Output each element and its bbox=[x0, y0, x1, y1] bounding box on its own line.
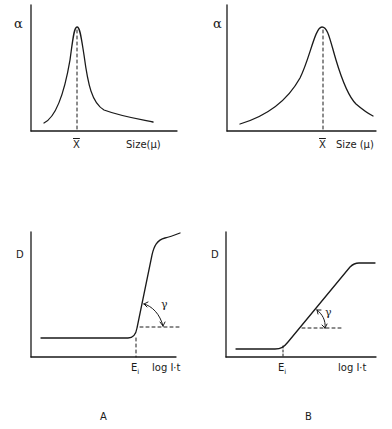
bottom-left-characteristic-curve bbox=[41, 233, 180, 338]
bottom-left-gamma-label: γ bbox=[161, 299, 168, 310]
top-right-y-axis-label: α bbox=[213, 17, 222, 30]
bottom-left-y-axis-label: D bbox=[16, 250, 24, 260]
top-left-y-axis-label: α bbox=[14, 17, 23, 30]
top-right-mean-label: X bbox=[319, 140, 326, 150]
top-right-distribution-curve bbox=[240, 27, 373, 124]
bottom-left-ei-label: Ei bbox=[131, 363, 139, 376]
bottom-right-characteristic-curve bbox=[236, 263, 375, 349]
top-left-x-axis-label: Size(μ) bbox=[126, 140, 161, 150]
diagram-canvas bbox=[0, 0, 392, 429]
top-right-x-axis-label: Size (μ) bbox=[336, 140, 374, 150]
top-left-mean-label: X bbox=[73, 140, 80, 150]
bottom-right-gamma-label: γ bbox=[325, 307, 332, 318]
top-left-distribution-curve bbox=[44, 27, 153, 123]
bottom-right-ei-label: Ei bbox=[278, 363, 286, 376]
top-right-axes bbox=[227, 5, 376, 131]
panel-label-a: A bbox=[100, 412, 107, 422]
bottom-right-ei-subscript: i bbox=[284, 368, 286, 376]
bottom-right-gamma-arrow-bottom bbox=[322, 324, 327, 328]
panel-label-b: B bbox=[305, 412, 312, 422]
bottom-right-x-axis-label: log I·t bbox=[338, 363, 366, 373]
bottom-right-y-axis-label: D bbox=[211, 250, 219, 260]
bottom-right-gamma-arc bbox=[317, 310, 325, 328]
bottom-right-axes bbox=[226, 232, 376, 357]
bottom-left-x-axis-label: log I·t bbox=[152, 363, 180, 373]
top-left-axes bbox=[31, 5, 177, 131]
bottom-left-ei-subscript: i bbox=[137, 368, 139, 376]
